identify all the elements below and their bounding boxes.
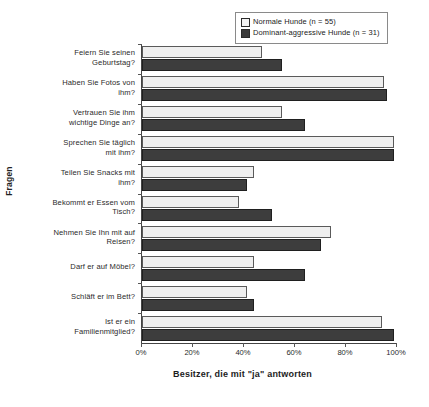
bar-normale-hunde[interactable] [142, 226, 331, 238]
category-label-line: Vertrauen Sie ihm [19, 108, 135, 118]
y-axis-tick [138, 164, 142, 165]
x-axis-tick [396, 343, 397, 347]
category-label: Sprechen Sie täglichmit ihm? [19, 138, 135, 157]
category-label-line: Sprechen Sie täglich [19, 138, 135, 148]
y-axis-tick [138, 44, 142, 45]
bar-group [142, 166, 397, 191]
bar-normale-hunde[interactable] [142, 136, 394, 148]
bar-dominant-aggressive-hunde[interactable] [142, 239, 321, 251]
bar-dominant-aggressive-hunde[interactable] [142, 149, 394, 161]
x-axis-tick [243, 343, 244, 347]
bar-group [142, 46, 397, 71]
category-label: Feiern Sie seinenGeburtstag? [19, 48, 135, 67]
category-label: Darf er auf Möbel? [19, 262, 135, 272]
x-axis-tick-label: 0% [121, 348, 161, 357]
legend-label: Dominant-aggressive Hunde (n = 31) [253, 28, 380, 38]
x-axis-title-text: Besitzer, die mit "ja" antworten [117, 369, 312, 379]
legend-item[interactable]: Dominant-aggressive Hunde (n = 31) [241, 28, 380, 38]
x-axis-tick-label: 100% [376, 348, 416, 357]
bar-group [142, 286, 397, 311]
bar-group [142, 136, 397, 161]
category-label-line: Schläft er im Bett? [19, 292, 135, 302]
x-axis-tick-label: 80% [325, 348, 365, 357]
bar-group [142, 106, 397, 131]
x-axis-title: Besitzer, die mit "ja" antworten [0, 369, 429, 379]
y-axis-tick [138, 253, 142, 254]
category-label-line: Feiern Sie seinen [19, 48, 135, 58]
category-label-line: Familienmitglied? [19, 327, 135, 337]
y-axis-tick [138, 194, 142, 195]
bar-normale-hunde[interactable] [142, 166, 254, 178]
category-label-line: Darf er auf Möbel? [19, 262, 135, 272]
x-axis-tick [294, 343, 295, 347]
bar-normale-hunde[interactable] [142, 196, 239, 208]
category-label: Teilen Sie Snacks mitihm? [19, 168, 135, 187]
x-axis-tick [192, 343, 193, 347]
bar-normale-hunde[interactable] [142, 76, 384, 88]
bar-dominant-aggressive-hunde[interactable] [142, 269, 305, 281]
x-axis-line [141, 343, 397, 344]
category-label-line: Haben Sie Fotos von [19, 78, 135, 88]
category-label-line: ihm? [19, 88, 135, 98]
category-label: Nehmen Sie Ihn mit aufReisen? [19, 228, 135, 247]
category-label-line: Reisen? [19, 237, 135, 247]
legend-item[interactable]: Normale Hunde (n = 55) [241, 17, 380, 27]
bar-group [142, 226, 397, 251]
bar-dominant-aggressive-hunde[interactable] [142, 209, 272, 221]
category-label-line: mit ihm? [19, 148, 135, 158]
bar-dominant-aggressive-hunde[interactable] [142, 59, 282, 71]
bar-chart: Normale Hunde (n = 55)Dominant-aggressiv… [0, 0, 429, 407]
bar-group [142, 316, 397, 341]
category-label-line: wichtige Dinge an? [19, 118, 135, 128]
category-label-line: Tisch? [19, 207, 135, 217]
bar-dominant-aggressive-hunde[interactable] [142, 119, 305, 131]
bar-normale-hunde[interactable] [142, 256, 254, 268]
bar-group [142, 256, 397, 281]
category-label: Bekommt er Essen vomTisch? [19, 198, 135, 217]
legend-swatch-dark [241, 29, 250, 38]
y-axis-title: Fragen [4, 146, 14, 216]
y-axis-tick [138, 104, 142, 105]
category-label-line: Bekommt er Essen vom [19, 198, 135, 208]
legend-swatch-light [241, 18, 250, 27]
bar-normale-hunde[interactable] [142, 46, 262, 58]
category-label-line: Geburtstag? [19, 58, 135, 68]
y-axis-tick [138, 223, 142, 224]
legend-label: Normale Hunde (n = 55) [253, 17, 336, 27]
category-label: Vertrauen Sie ihmwichtige Dinge an? [19, 108, 135, 127]
y-axis-tick [138, 313, 142, 314]
category-label-line: ihm? [19, 178, 135, 188]
category-label-line: Teilen Sie Snacks mit [19, 168, 135, 178]
y-axis-tick [138, 134, 142, 135]
x-axis-tick-label: 20% [172, 348, 212, 357]
x-axis-tick [141, 343, 142, 347]
bar-normale-hunde[interactable] [142, 106, 282, 118]
category-label-line: Nehmen Sie Ihn mit auf [19, 228, 135, 238]
x-axis-tick [345, 343, 346, 347]
bar-group [142, 76, 397, 101]
category-label-line: Ist er ein [19, 317, 135, 327]
y-axis-tick [138, 283, 142, 284]
chart-legend: Normale Hunde (n = 55)Dominant-aggressiv… [235, 12, 388, 44]
bar-dominant-aggressive-hunde[interactable] [142, 299, 254, 311]
bar-dominant-aggressive-hunde[interactable] [142, 329, 394, 341]
y-axis-tick [138, 74, 142, 75]
bar-dominant-aggressive-hunde[interactable] [142, 179, 247, 191]
category-label: Ist er einFamilienmitglied? [19, 317, 135, 336]
bar-normale-hunde[interactable] [142, 316, 382, 328]
bar-group [142, 196, 397, 221]
bar-dominant-aggressive-hunde[interactable] [142, 89, 387, 101]
category-label: Schläft er im Bett? [19, 292, 135, 302]
plot-area [141, 44, 396, 343]
category-label: Haben Sie Fotos vonihm? [19, 78, 135, 97]
x-axis-tick-label: 40% [223, 348, 263, 357]
x-axis-tick-label: 60% [274, 348, 314, 357]
bar-normale-hunde[interactable] [142, 286, 247, 298]
